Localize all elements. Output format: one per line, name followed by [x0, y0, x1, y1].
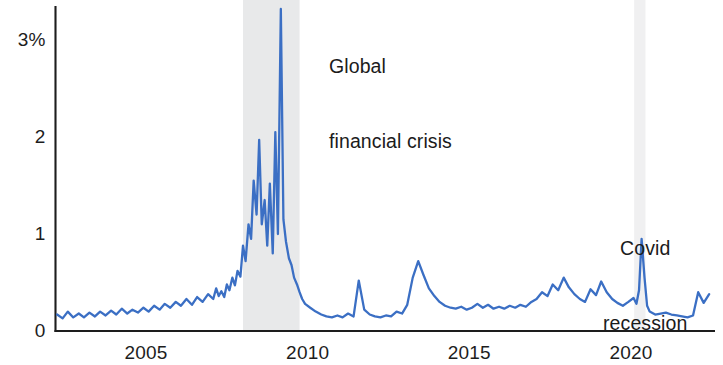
annotation-global-financial-crisis: Global financial crisis: [329, 4, 452, 204]
y-tick-label: 3%: [18, 29, 46, 51]
y-tick-label: 0: [35, 320, 46, 342]
y-tick-label: 1: [35, 223, 46, 245]
recession-band: [243, 0, 300, 331]
annotation-covid-line2: recession: [603, 311, 687, 336]
annotation-covid-recession: Covid recession: [603, 186, 687, 365]
annotation-gfc-line1: Global: [329, 54, 452, 79]
annotation-gfc-line2: financial crisis: [329, 129, 452, 154]
y-tick-label: 2: [35, 126, 46, 148]
x-tick-label: 2015: [448, 342, 491, 364]
chart-figure: 3%210 2005201020152020 Global financial …: [0, 0, 723, 365]
x-tick-label: 2010: [286, 342, 329, 364]
x-tick-label: 2005: [124, 342, 167, 364]
annotation-covid-line1: Covid: [603, 236, 687, 261]
